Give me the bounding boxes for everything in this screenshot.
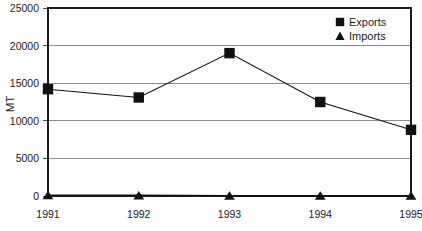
y-axis-tick-label: 5000 bbox=[16, 152, 40, 164]
triangle-marker bbox=[335, 31, 344, 40]
y-axis-tick-label: 20000 bbox=[10, 40, 39, 52]
line-chart: 0500010000150002000025000 19911992199319… bbox=[0, 0, 422, 231]
data-series-group bbox=[43, 48, 417, 200]
y-axis-tick-label: 15000 bbox=[10, 77, 39, 89]
square-marker bbox=[43, 84, 53, 94]
x-axis-tick-label: 1994 bbox=[309, 208, 333, 220]
x-axis-tick-label: 1993 bbox=[218, 208, 242, 220]
x-axis-tick-label: 1992 bbox=[127, 208, 151, 220]
x-axis-tick-labels: 19911992199319941995 bbox=[36, 208, 422, 220]
y-axis-title: MT bbox=[4, 96, 16, 113]
legend-label: Imports bbox=[349, 30, 386, 42]
x-axis-tick-label: 1995 bbox=[399, 208, 422, 220]
chart-legend: ExportsImports bbox=[335, 16, 386, 42]
series-line bbox=[48, 53, 411, 130]
chart-container: 0500010000150002000025000 19911992199319… bbox=[0, 0, 422, 231]
y-axis-tick-label: 0 bbox=[33, 190, 39, 202]
x-axis-tick-label: 1991 bbox=[36, 208, 60, 220]
square-marker bbox=[134, 92, 144, 102]
square-marker bbox=[224, 48, 234, 58]
series-exports bbox=[43, 48, 416, 135]
y-axis-tick-label: 10000 bbox=[10, 115, 39, 127]
series-imports bbox=[43, 191, 417, 200]
square-marker bbox=[315, 97, 325, 107]
square-marker bbox=[406, 125, 416, 135]
y-axis-tick-label: 25000 bbox=[10, 2, 39, 14]
legend-label: Exports bbox=[349, 16, 387, 28]
square-marker bbox=[336, 18, 344, 26]
